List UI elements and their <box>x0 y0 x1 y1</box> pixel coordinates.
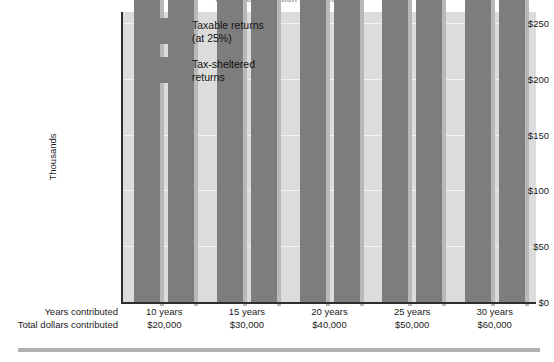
y-axis-line <box>121 12 123 303</box>
bar-face <box>334 0 360 302</box>
bar-shadow <box>525 0 529 306</box>
x-axis-cell: $60,000 <box>478 319 512 330</box>
x-axis-row-title: Total dollars contributed <box>0 319 118 330</box>
y-tick-label: $50 <box>436 241 554 252</box>
x-axis-cell: $30,000 <box>230 319 264 330</box>
bar-face <box>382 0 408 302</box>
bar-shadow <box>326 0 330 306</box>
x-axis-row-title: Years contributed <box>0 306 118 317</box>
bar-face <box>499 0 525 302</box>
x-axis-cell: $40,000 <box>312 319 346 330</box>
bar-shadow <box>360 0 364 306</box>
bottom-divider <box>18 348 540 352</box>
bar-face <box>465 0 491 302</box>
bar-face <box>300 0 326 302</box>
bar-shadow <box>491 0 495 306</box>
legend: Taxable returns (at 25%) Tax-sheltered r… <box>157 18 264 96</box>
bar-face <box>416 0 442 302</box>
y-tick-label: $100 <box>436 185 554 196</box>
bar: $116,313 <box>382 0 408 302</box>
bar-shadow <box>442 0 446 306</box>
legend-label-taxable: Taxable returns (at 25%) <box>192 18 264 44</box>
investment-growth-bar-chart: $27,943$31,920$49,345$58,648$77,985$98,8… <box>0 0 554 362</box>
y-axis-label: Thousands <box>47 133 58 180</box>
bar: $98,846 <box>334 0 360 302</box>
legend-item-tax-sheltered: Tax-sheltered returns <box>157 57 264 83</box>
legend-swatch-icon-taxable <box>157 18 179 44</box>
legend-swatch-icon-tax-sheltered <box>157 57 179 83</box>
x-axis-cell: $50,000 <box>395 319 429 330</box>
x-axis-cell: 10 years <box>146 306 182 317</box>
bar: $77,985 <box>300 0 326 302</box>
x-axis-cell: 30 years <box>476 306 512 317</box>
bar: $244,691 <box>499 0 525 302</box>
x-axis-cell: $20,000 <box>147 319 181 330</box>
legend-label-tax-sheltered: Tax-sheltered returns <box>192 57 255 83</box>
x-axis-label-table: Years contributed10 years15 years20 year… <box>0 306 554 336</box>
y-tick-label: $250 <box>436 18 554 29</box>
x-axis-cell: 25 years <box>394 306 430 317</box>
bar-shadow <box>277 0 281 306</box>
y-tick-label: $150 <box>436 129 554 140</box>
legend-item-taxable: Taxable returns (at 25%) <box>157 18 264 44</box>
bar-shadow <box>408 0 412 306</box>
y-tick-label: $200 <box>436 73 554 84</box>
bar: $167,603 <box>465 0 491 302</box>
x-axis-cell: 15 years <box>229 306 265 317</box>
x-axis-cell: 20 years <box>311 306 347 317</box>
bar: $157,909 <box>416 0 442 302</box>
